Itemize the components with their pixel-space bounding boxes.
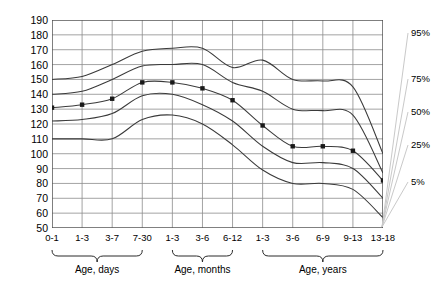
percentile-label: 50%: [411, 106, 430, 117]
percentile-label: 5%: [411, 176, 425, 187]
x-tick-label: 13-18: [365, 232, 401, 243]
percentile-label: 75%: [411, 73, 430, 84]
percentile-label: 25%: [411, 139, 430, 150]
chart-root: Heart Rate per Minute 190180170160150140…: [0, 0, 439, 284]
percentile-label: 95%: [411, 27, 430, 38]
group-label: Age, years: [263, 264, 383, 275]
group-label: Age, months: [142, 264, 262, 275]
x-axis-tick-labels: 0-11-33-77-301-33-66-121-33-66-99-1313-1…: [0, 0, 439, 284]
group-label: Age, days: [37, 264, 157, 275]
